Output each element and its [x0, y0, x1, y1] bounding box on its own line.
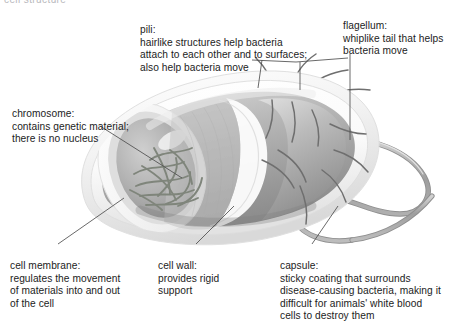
label-cell-wall: cell wall:provides rigid support [158, 248, 268, 298]
label-capsule: capsule:sticky coating that surrounds di… [280, 248, 475, 322]
label-flagellum: flagellum:whiplike tail that helps bacte… [343, 8, 473, 58]
label-cell-membrane-description: regulates the movement of materials into… [10, 273, 120, 309]
clipped-top-text: cell structure [4, 0, 66, 5]
label-cell-wall-description: provides rigid support [158, 273, 219, 296]
label-pili-description: hairlike structures help bacteria attach… [140, 37, 307, 73]
label-capsule-term: capsule: [280, 260, 475, 272]
label-flagellum-description: whiplike tail that helps bacteria move [343, 33, 443, 56]
label-chromosome: chromosome:contains genetic material; th… [12, 96, 162, 146]
label-pili: pili:hairlike structures help bacteria a… [140, 12, 340, 74]
leader-lines [58, 54, 350, 244]
label-capsule-description: sticky coating that surrounds disease-ca… [280, 273, 441, 321]
bacterium-diagram: cell structure [0, 0, 475, 328]
label-cell-wall-term: cell wall: [158, 260, 268, 272]
label-cell-membrane-term: cell membrane: [10, 260, 155, 272]
label-chromosome-term: chromosome: [12, 108, 162, 120]
flagellum-shape [293, 137, 432, 241]
pili-front [262, 100, 368, 224]
label-cell-membrane: cell membrane:regulates the movement of … [10, 248, 155, 310]
chromosome-shape [130, 148, 202, 210]
label-flagellum-term: flagellum: [343, 20, 473, 32]
label-chromosome-description: contains genetic material; there is no n… [12, 121, 129, 144]
label-pili-term: pili: [140, 24, 340, 36]
